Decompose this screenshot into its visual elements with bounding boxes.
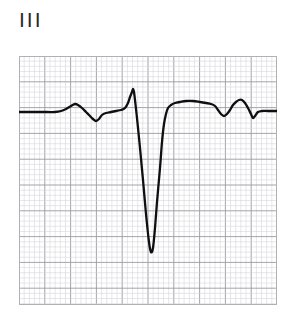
lead-label: III	[19, 9, 43, 30]
ecg-figure: III	[0, 0, 295, 327]
ecg-grid-panel	[19, 56, 277, 305]
ecg-grid	[19, 56, 277, 305]
